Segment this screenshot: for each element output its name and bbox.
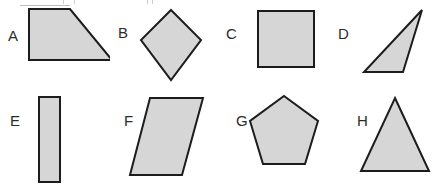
shape-isosceles-triangle-h (329, 93, 438, 186)
shape-label-h: H (357, 113, 368, 128)
shape-cell-c (219, 0, 329, 93)
shape-cell-h (329, 93, 438, 186)
shape-cell-d (329, 0, 438, 93)
shape-rhombus-b (110, 0, 220, 93)
shape-cell-f (110, 93, 220, 186)
polygon-d (364, 10, 422, 72)
shape-label-c: C (226, 26, 237, 41)
shape-cell-e (0, 93, 110, 186)
shape-label-f: F (124, 113, 133, 128)
shape-scalene-triangle-d (329, 0, 438, 93)
shape-label-b: B (118, 25, 128, 40)
shape-cell-g (219, 93, 329, 186)
shape-right-trapezoid-a (0, 0, 110, 93)
shape-narrow-rectangle-e (0, 93, 110, 186)
polygon-c (258, 11, 314, 67)
shape-label-e: E (10, 113, 20, 128)
shape-label-g: G (236, 113, 248, 128)
shape-label-a: A (8, 28, 18, 43)
shape-pentagon-g (219, 93, 329, 186)
shape-cell-b (110, 0, 220, 93)
polygon-e (39, 97, 60, 182)
shape-parallelogram-f (110, 93, 220, 186)
polygon-f (130, 98, 203, 175)
shapes-worksheet: ABCDEFGH (0, 0, 438, 186)
shape-label-d: D (338, 26, 349, 41)
polygon-h (361, 98, 429, 171)
shape-cell-a (0, 0, 110, 93)
shape-square-c (219, 0, 329, 93)
polygon-b (141, 10, 201, 80)
polygon-g (250, 96, 318, 164)
polygon-a (29, 9, 110, 60)
